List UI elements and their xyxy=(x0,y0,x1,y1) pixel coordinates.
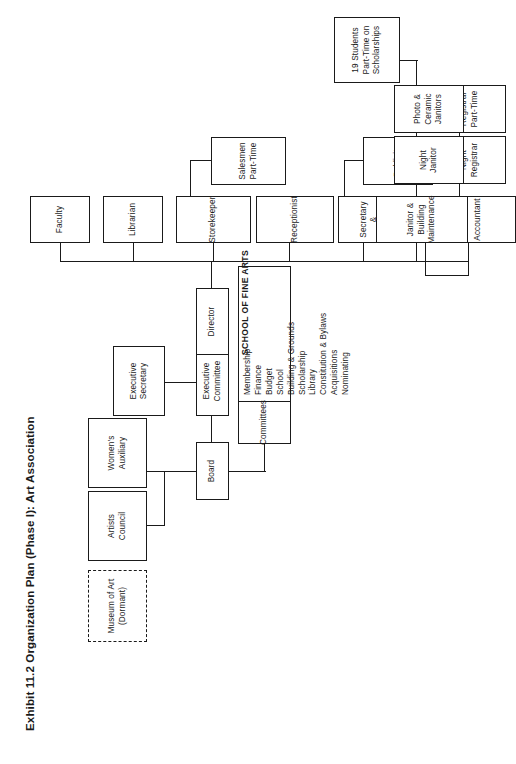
node-museum-of-art[interactable]: Museum of Art (Dormant) xyxy=(88,570,147,642)
node-artists-council[interactable]: Artists Council xyxy=(88,491,147,561)
node-executive-committee[interactable]: Executive Committee xyxy=(196,346,229,416)
committee-item: Constitution & Bylaws xyxy=(319,272,330,395)
connector-secretary-to-publicity xyxy=(344,160,345,196)
node-librarian[interactable]: Librarian xyxy=(103,196,163,243)
node-salesmen-part-time-label: Salesmen Part-Time xyxy=(238,140,259,182)
node-receptionist-label: Receptionist xyxy=(290,194,301,245)
node-salesmen-part-time[interactable]: Salesmen Part-Time xyxy=(211,137,286,185)
node-night-janitor[interactable]: Night Janitor xyxy=(394,136,464,184)
connector-spine-to-storekeeper xyxy=(213,242,214,262)
connector-spine-to-receptionist xyxy=(289,242,290,262)
committee-item: Finance xyxy=(254,272,265,395)
node-womens-auxiliary[interactable]: Women's Auxiliary xyxy=(88,418,147,488)
connector-womens-auxiliary-drop xyxy=(147,471,165,472)
node-womens-auxiliary-label: Women's Auxiliary xyxy=(107,434,128,473)
connector-committees-stub xyxy=(264,444,265,472)
connector-artists-council-drop xyxy=(147,525,165,526)
node-storekeeper-label: Storekeeper xyxy=(208,194,219,244)
committee-item: Scholarship xyxy=(298,272,309,395)
node-board[interactable]: Board xyxy=(196,442,229,500)
page-title: Exhibit 11.2 Organization Plan (Phase I)… xyxy=(23,416,36,731)
connector-subordinate-spine xyxy=(60,261,468,262)
node-students-scholarships-label: 19 Students Part-Time on Scholarships xyxy=(351,24,383,77)
connector-exec-secretary-stub xyxy=(165,382,166,383)
node-photo-ceramic-janitors-label: Photo & Ceramic Janitors xyxy=(413,91,445,127)
node-accountant-label: Accountant xyxy=(473,196,484,242)
connector-board-to-councils-vertical xyxy=(165,471,198,472)
node-museum-of-art-label: Museum of Art (Dormant) xyxy=(107,577,128,636)
node-executive-committee-label: Executive Committee xyxy=(202,359,223,404)
committee-item: Library xyxy=(308,272,319,395)
node-executive-secretary-label: Executive Secretary xyxy=(129,361,150,402)
caption-school-of-fine-arts: SCHOOL OF FINE ARTS xyxy=(240,250,250,355)
connector-students-drop xyxy=(400,60,418,61)
node-storekeeper[interactable]: Storekeeper xyxy=(176,196,251,243)
node-librarian-label: Librarian xyxy=(128,201,139,238)
node-students-scholarships[interactable]: 19 Students Part-Time on Scholarships xyxy=(334,17,400,83)
node-night-janitor-label: Night Janitor xyxy=(419,145,440,175)
committee-item: Budget xyxy=(265,272,276,395)
node-board-label: Board xyxy=(207,458,218,485)
committee-item: Acquisitions xyxy=(330,272,341,395)
node-janitor-building-maintenance-main[interactable]: Janitor & Building Maintenance xyxy=(376,196,468,243)
connector-spine-to-secretary-publicity xyxy=(363,242,364,262)
committee-item: School xyxy=(276,272,287,395)
connector-storekeeper-salesmen-drop xyxy=(190,160,212,161)
connector-janitor-riser xyxy=(425,275,469,276)
connector-board-to-exec-committee xyxy=(211,416,212,442)
connector-councils-bus xyxy=(164,471,165,526)
committee-item: Building & Grounds xyxy=(287,272,298,395)
connector-director-to-spine xyxy=(211,261,212,288)
node-executive-secretary[interactable]: Executive Secretary xyxy=(113,346,165,416)
connector-storekeeper-to-salesmen xyxy=(190,160,191,196)
node-artists-council-label: Artists Council xyxy=(107,510,128,542)
connector-spine-to-accountant xyxy=(468,242,469,262)
node-committees-header: Committees xyxy=(239,401,290,443)
connector-spine-to-librarian xyxy=(133,242,134,262)
connector-spine-to-faculty xyxy=(60,242,61,262)
node-director-label: Director xyxy=(207,305,218,339)
node-receptionist[interactable]: Receptionist xyxy=(256,196,334,243)
node-janitor-building-maintenance-main-label: Janitor & Building Maintenance xyxy=(406,193,438,246)
node-director[interactable]: Director xyxy=(196,288,229,355)
node-faculty[interactable]: Faculty xyxy=(30,196,90,243)
committee-item: Nominating xyxy=(341,272,352,395)
connector-publicity-drop xyxy=(344,160,364,161)
node-photo-ceramic-janitors[interactable]: Photo & Ceramic Janitors xyxy=(394,85,464,133)
node-faculty-label: Faculty xyxy=(55,204,66,235)
connector-janitor-stub xyxy=(425,242,426,276)
